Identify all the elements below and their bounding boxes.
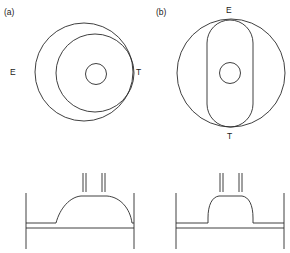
inner-circle-a: [86, 64, 107, 85]
middle-circle-a: [56, 34, 134, 112]
outer-circle-b: [177, 19, 285, 127]
diagram-canvas: (a) E T (b) E T: [0, 0, 290, 253]
panel-b-label: (b): [156, 7, 167, 17]
panel-a-top-view: (a) E T: [4, 7, 141, 121]
marker-t-b: T: [227, 131, 232, 141]
stadium-shape-b: [207, 20, 253, 127]
inner-circle-b: [220, 63, 241, 84]
marker-e-a: E: [10, 67, 16, 77]
panel-b-cross-section: [176, 173, 284, 249]
marker-e-b: E: [226, 5, 232, 15]
bump-profile-b: [176, 196, 284, 223]
bump-profile-a: [26, 196, 134, 223]
panel-a-cross-section: [26, 173, 134, 249]
marker-t-a: T: [136, 67, 141, 77]
panel-b-top-view: (b) E T: [156, 5, 285, 141]
panel-a-label: (a): [4, 7, 15, 17]
outer-circle-a: [35, 23, 133, 121]
